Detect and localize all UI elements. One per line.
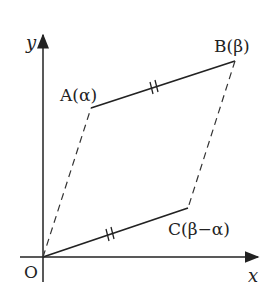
segment-BC [188,61,235,208]
point-B-label: B(β) [214,36,250,56]
y-axis-label: y [25,32,37,53]
point-C-label: C(β−α) [168,219,230,239]
segment-OA [43,108,91,257]
point-A-label: A(α) [59,85,97,105]
segment-AB [91,61,235,108]
segment-OC [43,208,188,257]
x-axis-label: x [248,265,258,286]
parallelogram-diagram: y x O A(α) B(β) C(β−α) [0,0,276,295]
origin-label: O [24,262,38,282]
